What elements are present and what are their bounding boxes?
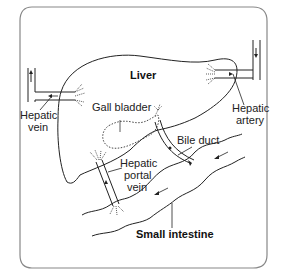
label-liver: Liver (130, 69, 157, 81)
small-intestine-upper-wall (82, 134, 242, 215)
label-hepatic-vein-line2: vein (28, 121, 48, 133)
hepatic-artery-vessel (215, 40, 260, 80)
label-gall-bladder: Gall bladder (92, 101, 152, 113)
liver-diagram: Liver Hepatic vein Hepatic artery Gall b… (0, 0, 282, 275)
label-hepatic-portal-line2: portal (124, 169, 152, 181)
label-hepatic-vein-line1: Hepatic (20, 109, 58, 121)
gall-bladder-outline (103, 115, 159, 148)
label-hepatic-artery-line1: Hepatic (232, 102, 270, 114)
label-small-intestine: Small intestine (136, 228, 214, 240)
label-hepatic-portal-line3: vein (127, 181, 147, 193)
label-hepatic-artery-line2: artery (236, 114, 265, 126)
label-hepatic-portal-line1: Hepatic (120, 157, 158, 169)
label-bile-duct: Bile duct (177, 134, 219, 146)
small-intestine-lower-wall (92, 157, 245, 236)
